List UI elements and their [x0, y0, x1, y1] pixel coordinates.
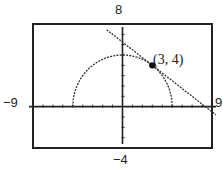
point-marker: [149, 62, 155, 68]
graph-window: [0, 0, 223, 170]
